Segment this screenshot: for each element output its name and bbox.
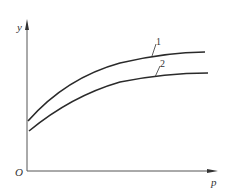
curve-2 [29, 73, 208, 131]
y-axis-arrow-icon [25, 19, 29, 30]
curve-2-label: 2 [160, 58, 165, 69]
x-axis-label: p [210, 176, 217, 188]
chart: y O p 1 2 [0, 0, 236, 192]
origin-label: O [15, 166, 23, 178]
curve-1-label: 1 [156, 36, 161, 47]
curve-1 [28, 52, 205, 121]
y-axis-label: y [16, 21, 22, 33]
x-axis-arrow-icon [207, 169, 218, 173]
